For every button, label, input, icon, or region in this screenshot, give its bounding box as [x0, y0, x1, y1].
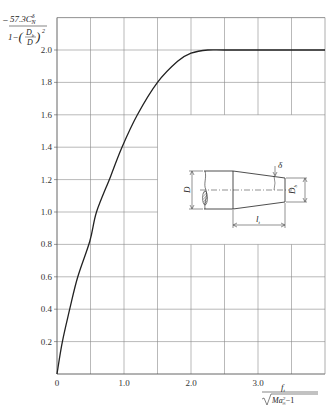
y-tick-label: 0.4 [41, 304, 53, 314]
delta-angle-arc [274, 176, 275, 190]
y-label-inner-den: D [26, 38, 33, 47]
y-tick-label: 1.0 [41, 207, 53, 217]
y-tick-label: 0.8 [41, 239, 53, 249]
label-delta: δ [278, 160, 283, 170]
x-tick-label: 2.0 [185, 378, 197, 388]
y-label-paren-close: ) [35, 29, 40, 44]
label-db: Db [287, 185, 298, 196]
y-tick-label: 0.6 [41, 272, 53, 282]
x-axis-ticks: 01.02.03.0 [55, 378, 264, 388]
boattail-top [233, 171, 285, 178]
x-label-numerator: ft [281, 382, 286, 393]
y-label-denominator: 1−( [8, 29, 24, 44]
y-tick-label: 1.6 [41, 110, 53, 120]
x-tick-label: 1.0 [118, 378, 130, 388]
chart-canvas: 0.20.40.60.81.01.21.41.61.82.0 01.02.03.… [0, 0, 330, 408]
label-lt: lt [256, 214, 261, 225]
break-hatch [203, 191, 208, 205]
y-tick-label: 0.2 [41, 337, 52, 347]
y-axis-label: − 57.3CδN 1−( Db D ) 2 [2, 13, 47, 47]
y-tick-label: 1.2 [41, 175, 52, 185]
inset-labels: D Db lt δ [182, 160, 298, 225]
y-tick-label: 1.4 [41, 142, 53, 152]
boattail-bottom [233, 202, 285, 209]
y-axis-ticks: 0.20.40.60.81.01.21.41.61.82.0 [41, 45, 57, 347]
y-tick-label: 2.0 [41, 45, 53, 55]
y-label-numerator: 57.3CδN [10, 13, 37, 25]
y-label-inner-num: Db [25, 28, 35, 38]
x-axis-label: ft Ma2∞−1 [262, 382, 318, 406]
x-label-denominator: Ma2∞−1 [271, 396, 294, 406]
x-tick-label: 0 [55, 378, 60, 388]
inset-boattail-diagram [189, 166, 307, 228]
label-d: D [182, 186, 192, 194]
y-tick-label: 1.8 [41, 77, 53, 87]
y-label-sign: − [2, 15, 9, 26]
y-label-exponent: 2 [42, 28, 45, 34]
x-tick-label: 3.0 [252, 378, 264, 388]
